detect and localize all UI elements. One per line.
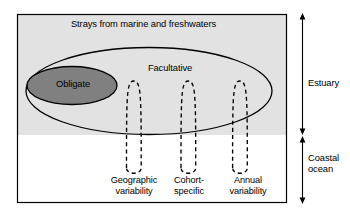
figure-panel: Strays from marine and freshwaters Facul… — [0, 0, 350, 211]
estuary-extent-arrow — [300, 13, 306, 135]
coastal-ocean-region-label: Coastal ocean — [308, 153, 350, 174]
obligate-label: Obligate — [31, 79, 115, 90]
cohort-specific-label: Cohort- specific — [161, 175, 217, 197]
geographic-variability-label: Geographic variability — [97, 175, 171, 197]
estuary-region-label: Estuary — [308, 78, 350, 89]
facultative-label: Facultative — [130, 63, 210, 74]
annual-variability-label: Annual variability — [213, 175, 283, 197]
strays-title-label: Strays from marine and freshwaters — [0, 19, 287, 30]
coastal-ocean-extent-arrow — [300, 136, 306, 204]
